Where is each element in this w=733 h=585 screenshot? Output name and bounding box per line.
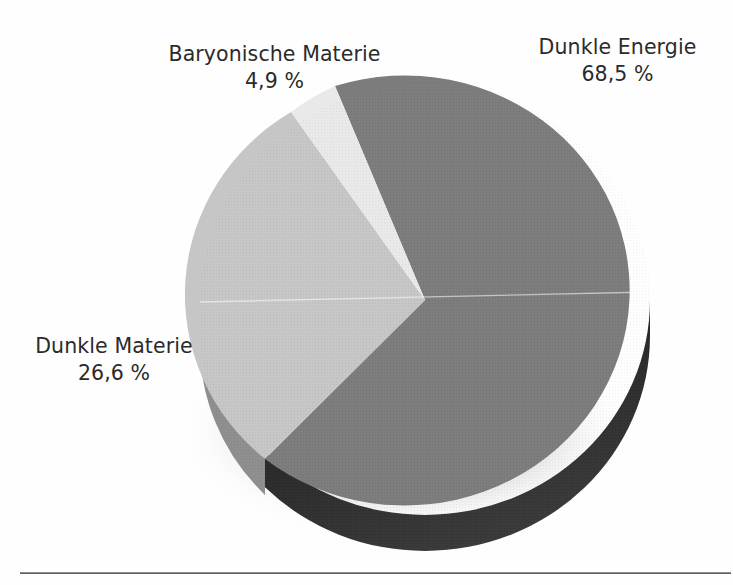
slice-label-dunkle-materie: Dunkle Materie 26,6 %	[14, 333, 214, 386]
slice-label-name: Baryonische Materie	[152, 41, 397, 68]
slice-label-value: 4,9 %	[152, 68, 397, 95]
bottom-divider-rule	[20, 572, 731, 574]
slice-label-baryonische-materie: Baryonische Materie 4,9 %	[152, 41, 397, 94]
slice-label-dunkle-energie: Dunkle Energie 68,5 %	[515, 34, 720, 87]
slice-label-name: Dunkle Materie	[14, 333, 214, 360]
slice-label-value: 68,5 %	[515, 61, 720, 88]
pie-chart-figure: Dunkle Energie 68,5 % Baryonische Materi…	[0, 0, 733, 560]
slice-label-value: 26,6 %	[14, 360, 214, 387]
pie-chart-page: Dunkle Energie 68,5 % Baryonische Materi…	[0, 0, 733, 585]
slice-label-name: Dunkle Energie	[515, 34, 720, 61]
